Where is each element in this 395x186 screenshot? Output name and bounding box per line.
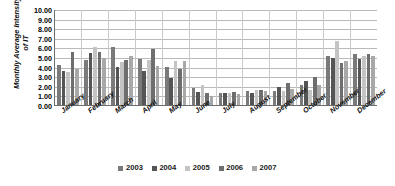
- bar: [147, 60, 151, 105]
- chart-legend: 20032004200520062007: [0, 164, 395, 172]
- bar: [138, 59, 142, 105]
- bar: [116, 67, 120, 105]
- y-tick-label: 1.00: [38, 93, 52, 100]
- y-tick-label: 5.00: [38, 55, 52, 62]
- y-tick-label: 8.00: [38, 26, 52, 33]
- bar: [142, 71, 146, 105]
- bar: [362, 56, 366, 105]
- bar: [219, 93, 223, 105]
- y-tick-label: 0.00: [38, 103, 52, 110]
- bar: [183, 61, 187, 105]
- legend-label: 2003: [126, 164, 143, 172]
- legend-item[interactable]: 2006: [219, 164, 243, 172]
- legend-item[interactable]: 2003: [118, 164, 142, 172]
- y-tick-label: 7.00: [38, 35, 52, 42]
- y-tick-label: 2.00: [38, 83, 52, 90]
- bar: [174, 61, 178, 105]
- bar: [156, 66, 160, 105]
- legend-item[interactable]: 2007: [252, 164, 276, 172]
- legend-label: 2006: [226, 164, 243, 172]
- bar: [57, 65, 61, 105]
- bar: [169, 78, 173, 105]
- bar: [165, 67, 169, 105]
- bar-group: [324, 10, 351, 105]
- bar-group: [136, 10, 163, 105]
- legend-label: 2005: [193, 164, 210, 172]
- legend-label: 2007: [260, 164, 277, 172]
- bar-group: [109, 10, 136, 105]
- y-tick-label: 6.00: [38, 45, 52, 52]
- bar-groups: [55, 10, 377, 105]
- bar: [89, 53, 93, 105]
- legend-swatch-icon: [152, 166, 157, 171]
- bar-chart: Monthly Average Intensity of IT 10.009.0…: [0, 0, 395, 186]
- bar-group: [82, 10, 109, 105]
- y-axis-tick-labels: 10.009.008.007.006.005.004.003.002.001.0…: [22, 10, 52, 106]
- legend-swatch-icon: [118, 166, 123, 171]
- bar: [331, 58, 335, 105]
- legend-swatch-icon: [219, 166, 224, 171]
- y-tick-label: 10.00: [34, 7, 52, 14]
- bar-group: [217, 10, 244, 105]
- plot-area: [54, 10, 377, 106]
- bar-group: [163, 10, 190, 105]
- bar: [246, 91, 250, 105]
- legend-item[interactable]: 2005: [185, 164, 209, 172]
- y-tick-label: 4.00: [38, 64, 52, 71]
- bar: [335, 41, 339, 105]
- bar: [192, 88, 196, 105]
- bar: [237, 94, 241, 105]
- legend-item[interactable]: 2004: [152, 164, 176, 172]
- legend-swatch-icon: [252, 166, 257, 171]
- bar: [93, 47, 97, 105]
- bar-group: [190, 10, 217, 105]
- y-tick-label: 3.00: [38, 74, 52, 81]
- x-axis-tick-labels: JanuaryFebruaryMarchAprilMayJuneJulyAugu…: [54, 108, 377, 160]
- bar: [151, 49, 155, 105]
- bar: [273, 91, 277, 105]
- bar: [358, 59, 362, 105]
- bar-group: [55, 10, 82, 105]
- bar: [62, 71, 66, 105]
- bar-group: [243, 10, 270, 105]
- y-tick-label: 9.00: [38, 16, 52, 23]
- legend-label: 2004: [159, 164, 176, 172]
- legend-swatch-icon: [185, 166, 190, 171]
- bar-group: [270, 10, 297, 105]
